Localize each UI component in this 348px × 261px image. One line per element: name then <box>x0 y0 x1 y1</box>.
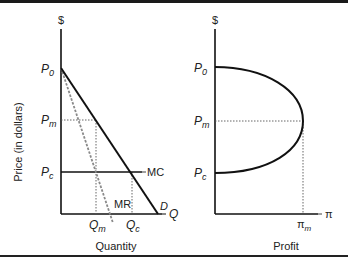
left-x-axis-title: Quantity <box>96 240 137 252</box>
left-x-axis-symbol: Q <box>169 207 178 221</box>
left-pc-label: Pc <box>41 165 54 181</box>
mc-label: MC <box>147 166 164 178</box>
right-pm-label: Pm <box>194 114 210 130</box>
mr-curve <box>61 68 113 223</box>
right-p0-label: P0 <box>194 61 207 77</box>
pim-label: πm <box>297 218 312 233</box>
right-pc-label: Pc <box>194 166 207 182</box>
bottom-border <box>0 255 348 257</box>
left-y-axis-symbol: $ <box>58 14 64 26</box>
qm-label: Qm <box>89 218 106 234</box>
qc-label: Qc <box>126 218 140 234</box>
mr-label: MR <box>114 198 131 210</box>
left-pm-label: Pm <box>41 113 57 129</box>
right-x-axis-title: Profit <box>273 240 299 252</box>
left-y-axis-title: Price (in dollars) <box>12 102 24 181</box>
right-panel: $ π P0 Pm Pc πm Profit <box>194 14 333 252</box>
left-panel: $ Price (in dollars) Q MC MR D P0 Pm Pc … <box>12 14 178 252</box>
left-p0-label: P0 <box>41 62 54 78</box>
demand-label: D <box>160 200 168 212</box>
right-y-axis-symbol: $ <box>212 14 218 26</box>
profit-curve <box>215 67 303 173</box>
demand-curve <box>61 68 158 214</box>
right-x-axis-symbol: π <box>325 208 333 220</box>
monopoly-diagram: $ Price (in dollars) Q MC MR D P0 Pm Pc … <box>0 0 348 261</box>
